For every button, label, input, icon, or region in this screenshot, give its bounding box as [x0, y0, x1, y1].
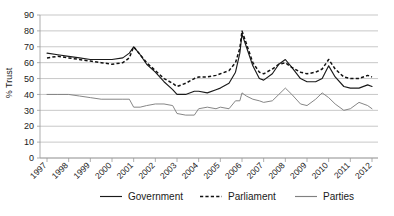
x-tick-label: 2003	[158, 160, 179, 181]
chart-legend: GovernmentParliamentParties	[100, 191, 354, 202]
y-axis-ticks: 0102030405060708090	[24, 10, 40, 163]
x-tick-label: 2008	[266, 160, 287, 181]
y-tick-label: 90	[24, 10, 34, 20]
y-tick-label: 80	[24, 26, 34, 36]
x-tick-label: 1999	[71, 160, 92, 181]
y-tick-label: 50	[24, 74, 34, 84]
x-tick-label: 1997	[28, 160, 49, 181]
x-axis-ticks: 1997199819992000200120022003200420052006…	[28, 158, 374, 181]
y-tick-label: 40	[24, 90, 34, 100]
y-tick-label: 30	[24, 106, 34, 116]
data-series-group	[47, 31, 372, 115]
x-tick-label: 2004	[180, 160, 201, 181]
x-tick-label: 2007	[245, 160, 266, 181]
series-line-government	[47, 34, 372, 94]
y-tick-label: 10	[24, 137, 34, 147]
x-tick-label: 2010	[310, 160, 331, 181]
x-tick-label: 2002	[136, 160, 157, 181]
y-tick-label: 0	[29, 153, 34, 163]
x-tick-label: 1998	[50, 160, 71, 181]
x-tick-label: 2011	[332, 160, 352, 180]
x-tick-label: 2006	[223, 160, 244, 181]
legend-label-parliament: Parliament	[228, 191, 276, 202]
x-tick-label: 2005	[201, 160, 222, 181]
x-tick-label: 2012	[353, 160, 374, 181]
x-tick-label: 2009	[288, 160, 309, 181]
gridlines	[40, 15, 378, 158]
trust-line-chart: % Trust 0102030405060708090 199719981999…	[0, 0, 394, 216]
x-tick-label: 2001	[115, 160, 136, 181]
chart-canvas: 0102030405060708090 19971998199920002001…	[0, 0, 394, 216]
series-line-parliament	[47, 31, 372, 87]
x-tick-label: 2000	[93, 160, 114, 181]
legend-label-parties: Parties	[323, 191, 354, 202]
legend-label-government: Government	[128, 191, 183, 202]
y-tick-label: 60	[24, 58, 34, 68]
y-tick-label: 70	[24, 42, 34, 52]
y-tick-label: 20	[24, 121, 34, 131]
